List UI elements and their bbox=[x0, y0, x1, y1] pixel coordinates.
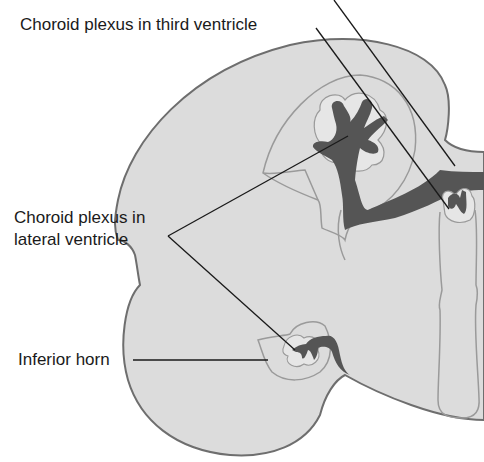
label-choroid-plexus-lateral-line2: lateral ventricle bbox=[14, 230, 128, 250]
label-choroid-plexus-third-ventricle: Choroid plexus in third ventricle bbox=[20, 15, 257, 35]
diagram-canvas: Choroid plexus in third ventricle Choroi… bbox=[0, 0, 484, 462]
hemisphere-outline bbox=[115, 39, 484, 455]
label-choroid-plexus-lateral-line1: Choroid plexus in bbox=[14, 208, 145, 228]
label-inferior-horn: Inferior horn bbox=[18, 350, 110, 370]
